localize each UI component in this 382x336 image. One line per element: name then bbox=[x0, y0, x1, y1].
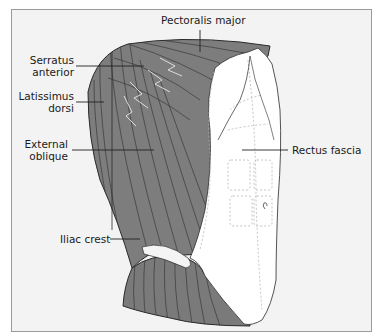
label-rectus-fascia: Rectus fascia bbox=[292, 144, 361, 156]
label-latissimus-dorsi-2: dorsi bbox=[16, 102, 74, 114]
label-external-oblique-1: External bbox=[16, 138, 68, 150]
label-external-oblique-2: oblique bbox=[16, 150, 68, 162]
label-serratus-anterior-2: anterior bbox=[26, 66, 74, 78]
label-latissimus-dorsi-1: Latissimus bbox=[16, 90, 74, 102]
torso-illustration bbox=[0, 0, 382, 336]
label-serratus-anterior-1: Serratus bbox=[26, 54, 74, 66]
label-iliac-crest: Iliac crest bbox=[60, 233, 110, 245]
label-pectoralis-major: Pectoralis major bbox=[161, 14, 245, 26]
